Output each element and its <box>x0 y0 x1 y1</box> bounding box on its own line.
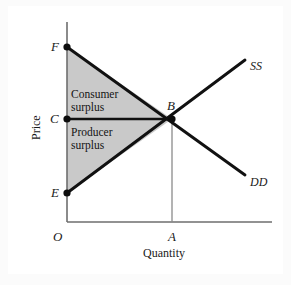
figure-root: F C E B A O SS DD Consumer surplus Produ… <box>0 0 291 285</box>
origin-label: O <box>53 230 62 243</box>
supply-curve-label: SS <box>250 60 262 72</box>
price-axis-title: Price <box>30 115 42 140</box>
quantity-axis-title: Quantity <box>143 247 185 259</box>
point-label-c: C <box>50 112 59 125</box>
point-marker-c <box>63 115 70 122</box>
consumer-surplus-label-line1: Consumer <box>71 88 118 101</box>
point-marker-f <box>63 43 70 50</box>
point-marker-b <box>168 115 175 122</box>
point-label-a: A <box>168 230 176 243</box>
point-label-b: B <box>167 99 175 112</box>
point-label-e: E <box>51 186 59 199</box>
point-label-f: F <box>51 40 59 53</box>
supply-demand-diagram <box>0 0 291 285</box>
producer-surplus-label-line2: surplus <box>71 139 104 152</box>
producer-surplus-label-line1: Producer <box>71 126 113 139</box>
consumer-surplus-label-line2: surplus <box>71 101 104 114</box>
point-marker-e <box>63 189 70 196</box>
demand-curve-label: DD <box>250 176 267 188</box>
